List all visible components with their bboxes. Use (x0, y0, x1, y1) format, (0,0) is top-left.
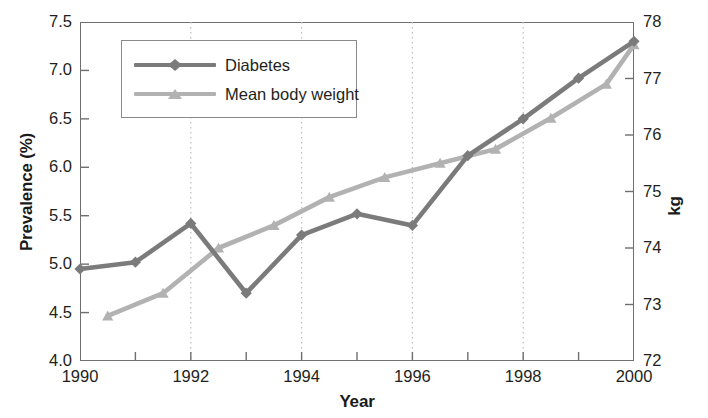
y-axis-left-tick-label: 6.0 (12, 157, 72, 176)
y-axis-left-tick-label: 4.5 (12, 303, 72, 322)
x-axis-tick-label: 1990 (45, 367, 115, 386)
legend-item-diabetes: Diabetes (134, 52, 290, 78)
chart-figure: Prevalence (%) kg Year 4.04.55.05.56.06.… (0, 0, 708, 418)
x-axis-title: Year (80, 392, 634, 412)
x-axis-tick-label: 1994 (267, 367, 337, 386)
legend-label-diabetes: Diabetes (225, 57, 290, 74)
y-axis-left-tick-label: 6.5 (12, 109, 72, 128)
legend-label-mean-body-weight: Mean body weight (225, 86, 359, 103)
diamond-marker-icon (167, 58, 183, 72)
x-axis-tick-label: 1992 (156, 367, 226, 386)
triangle-marker-icon (167, 87, 183, 101)
legend-swatch-diabetes (134, 57, 216, 73)
y-axis-left-tick-label: 7.0 (12, 60, 72, 79)
x-axis-tick-label: 2000 (599, 367, 669, 386)
legend-swatch-mean-body-weight (134, 86, 216, 102)
y-axis-right-tick-label: 76 (643, 125, 703, 144)
x-axis-tick-label: 1998 (488, 367, 558, 386)
y-axis-left-tick-label: 5.0 (12, 254, 72, 273)
y-axis-right-tick-label: 73 (643, 295, 703, 314)
y-axis-left-tick-label: 7.5 (12, 12, 72, 31)
y-axis-left-tick-label: 5.5 (12, 206, 72, 225)
y-axis-right-tick-label: 77 (643, 69, 703, 88)
legend-item-mean-body-weight: Mean body weight (134, 81, 359, 107)
y-axis-right-tick-label: 74 (643, 238, 703, 257)
x-axis-tick-label: 1996 (377, 367, 447, 386)
chart-legend: Diabetes Mean body weight (121, 40, 357, 118)
y-axis-right-tick-label: 75 (643, 182, 703, 201)
y-axis-right-tick-label: 78 (643, 12, 703, 31)
